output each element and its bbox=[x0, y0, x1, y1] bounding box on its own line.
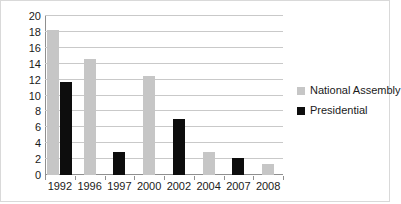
x-tick-mark bbox=[283, 176, 284, 180]
y-tick-label: 8 bbox=[1, 106, 41, 117]
chart-figure: 02468101214161820 1992199619972000200220… bbox=[0, 0, 390, 202]
x-tick-mark bbox=[224, 176, 225, 180]
y-tick-label: 6 bbox=[1, 122, 41, 133]
x-tick-mark bbox=[134, 176, 135, 180]
legend-label: National Assembly bbox=[310, 85, 401, 96]
bar-group-2007 bbox=[224, 16, 254, 175]
bar-national-assembly-2000 bbox=[143, 76, 155, 175]
x-tick-mark bbox=[45, 176, 46, 180]
y-tick-label: 4 bbox=[1, 138, 41, 149]
bar-national-assembly-2004 bbox=[203, 152, 215, 175]
y-tick-label: 16 bbox=[1, 42, 41, 53]
y-tick-label: 0 bbox=[1, 170, 41, 181]
bar-presidential-2002 bbox=[173, 119, 185, 175]
x-tick-label-2002: 2002 bbox=[167, 181, 191, 192]
bar-presidential-2007 bbox=[232, 158, 244, 175]
bar-group-1992 bbox=[45, 16, 75, 175]
x-tick-label-1997: 1997 bbox=[107, 181, 131, 192]
legend-item-presidential[interactable]: Presidential bbox=[297, 105, 389, 116]
bar-group-2000 bbox=[134, 16, 164, 175]
bar-group-2008 bbox=[253, 16, 283, 175]
bar-group-1996 bbox=[75, 16, 105, 175]
x-tick-label-2004: 2004 bbox=[196, 181, 220, 192]
bar-group-2004 bbox=[194, 16, 224, 175]
x-tick-label-2008: 2008 bbox=[256, 181, 280, 192]
bar-group-1997 bbox=[105, 16, 135, 175]
plot-area bbox=[45, 16, 283, 175]
bar-group-2002 bbox=[164, 16, 194, 175]
x-tick-mark bbox=[75, 176, 76, 180]
bar-national-assembly-2008 bbox=[262, 164, 274, 175]
bar-national-assembly-1996 bbox=[84, 59, 96, 175]
y-tick-label: 18 bbox=[1, 26, 41, 37]
legend-item-national-assembly[interactable]: National Assembly bbox=[297, 85, 389, 96]
x-tick-label-2007: 2007 bbox=[226, 181, 250, 192]
bar-presidential-1992 bbox=[60, 82, 72, 175]
bar-national-assembly-1992 bbox=[47, 30, 59, 175]
y-tick-label: 20 bbox=[1, 11, 41, 22]
legend-swatch-icon bbox=[297, 87, 305, 95]
x-tick-mark bbox=[194, 176, 195, 180]
y-tick-label: 10 bbox=[1, 90, 41, 101]
y-tick-label: 14 bbox=[1, 58, 41, 69]
x-tick-label-1992: 1992 bbox=[48, 181, 72, 192]
x-axis-tick-labels: 19921996199720002002200420072008 bbox=[45, 181, 283, 197]
x-tick-mark bbox=[164, 176, 165, 180]
x-tick-mark bbox=[105, 176, 106, 180]
x-tick-mark bbox=[253, 176, 254, 180]
y-tick-label: 12 bbox=[1, 74, 41, 85]
bar-groups bbox=[45, 16, 283, 175]
bar-presidential-1997 bbox=[113, 152, 125, 175]
x-tick-label-2000: 2000 bbox=[137, 181, 161, 192]
x-tick-label-1996: 1996 bbox=[77, 181, 101, 192]
y-tick-label: 2 bbox=[1, 154, 41, 165]
legend-swatch-icon bbox=[297, 107, 305, 115]
y-axis-tick-labels: 02468101214161820 bbox=[1, 16, 41, 175]
chart-legend: National AssemblyPresidential bbox=[297, 85, 389, 125]
legend-label: Presidential bbox=[310, 105, 367, 116]
